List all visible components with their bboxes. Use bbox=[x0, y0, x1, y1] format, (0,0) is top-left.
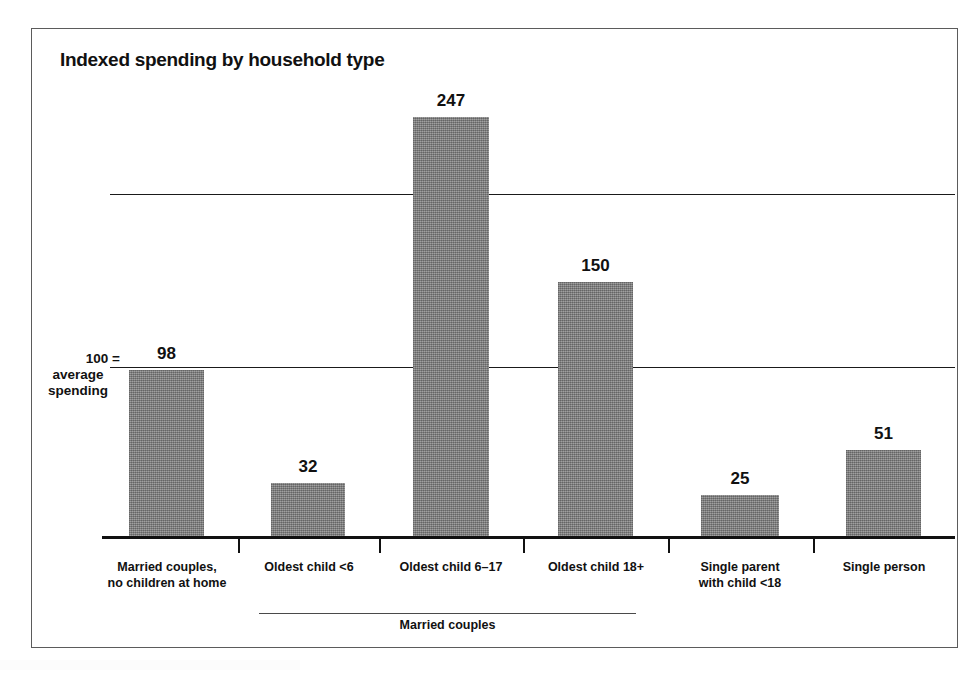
bar-oldest-child-under-6 bbox=[271, 483, 345, 537]
scan-artifact bbox=[0, 660, 300, 670]
category-label-single-parent-with-child-under-18: Single parent with child <18 bbox=[675, 559, 805, 591]
bar-value-label: 51 bbox=[846, 424, 921, 444]
bar-value-label: 98 bbox=[129, 344, 204, 364]
chart-frame: Indexed spending by household type 100 =… bbox=[31, 28, 958, 648]
bar-value-label: 150 bbox=[558, 256, 633, 276]
axis-tick bbox=[379, 537, 381, 553]
category-label-line: Married couples, bbox=[117, 560, 216, 574]
category-label-line: Oldest child 18+ bbox=[548, 560, 644, 574]
category-label-oldest-child-under-6: Oldest child <6 bbox=[244, 559, 374, 575]
bar-value-label: 25 bbox=[701, 469, 779, 489]
category-label-line: with child <18 bbox=[699, 576, 781, 590]
group-label-married-couples: Married couples bbox=[259, 618, 636, 632]
group-bracket-line bbox=[259, 613, 636, 614]
category-label-line: Single parent bbox=[700, 560, 779, 574]
category-label-line: Oldest child <6 bbox=[264, 560, 353, 574]
axis-tick bbox=[238, 537, 240, 553]
bars-layer bbox=[32, 29, 959, 537]
x-axis-baseline bbox=[102, 536, 955, 539]
bar-single-person bbox=[846, 450, 921, 537]
category-label-oldest-child-6-17: Oldest child 6–17 bbox=[386, 559, 516, 575]
category-label-single-person: Single person bbox=[819, 559, 949, 575]
category-label-married-couples-no-children: Married couples, no children at home bbox=[87, 559, 247, 591]
bar-value-label: 247 bbox=[413, 91, 489, 111]
bar-value-label: 32 bbox=[271, 457, 345, 477]
category-label-line: Single person bbox=[843, 560, 926, 574]
bar-single-parent-with-child-under-18 bbox=[701, 495, 779, 538]
bar-married-couples-no-children bbox=[129, 370, 204, 537]
category-label-line: Oldest child 6–17 bbox=[400, 560, 503, 574]
axis-tick bbox=[523, 537, 525, 553]
axis-tick bbox=[813, 537, 815, 553]
category-label-line: no children at home bbox=[108, 576, 227, 590]
bar-oldest-child-6-17 bbox=[413, 117, 489, 537]
bar-oldest-child-18-plus bbox=[558, 282, 633, 537]
category-label-oldest-child-18-plus: Oldest child 18+ bbox=[531, 559, 661, 575]
axis-tick bbox=[668, 537, 670, 553]
